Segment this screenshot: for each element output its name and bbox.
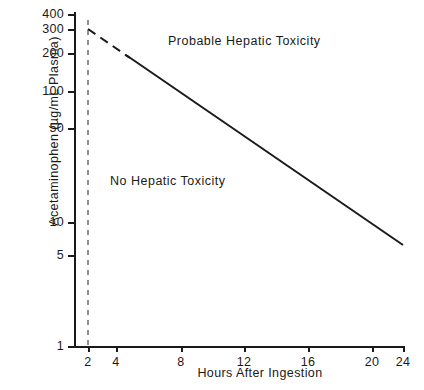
nomogram-figure: Acetaminophen (µg/mL Plasma) 400 300 200… (0, 0, 424, 390)
y-tick-label-1: 1 (26, 339, 64, 353)
y-tick-label-300: 300 (26, 22, 64, 36)
treatment-line-dashed-segment (88, 29, 130, 58)
y-tick-label-10: 10 (26, 215, 64, 229)
plot-area: 400 300 200 100 50 10 5 1 2 4 8 12 16 20… (74, 12, 404, 348)
y-tick-label-5: 5 (26, 248, 64, 262)
x-axis-label: Hours After Ingestion (197, 366, 322, 380)
y-tick-label-50: 50 (26, 121, 64, 135)
y-tick-label-400: 400 (26, 7, 64, 21)
y-tick-label-200: 200 (26, 46, 64, 60)
annotation-no-hepatic-toxicity: No Hepatic Toxicity (110, 174, 226, 188)
y-axis-label: Acetaminophen (µg/mL Plasma) (47, 0, 61, 271)
treatment-line-solid-segment (126, 55, 403, 245)
annotation-probable-hepatic-toxicity: Probable Hepatic Toxicity (168, 34, 321, 48)
x-axis-label-wrapper: Hours After Ingestion (0, 366, 424, 380)
y-tick-label-100: 100 (26, 84, 64, 98)
